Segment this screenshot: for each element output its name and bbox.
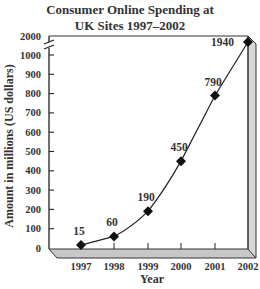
x-tick-label: 1999	[138, 261, 159, 272]
data-label: 1940	[211, 36, 234, 48]
y-tick-label: 400	[25, 165, 41, 176]
x-axis-title: Year	[140, 272, 165, 286]
y-tick-label: 500	[25, 146, 41, 157]
data-label: 450	[170, 141, 188, 153]
data-series: 15601904507901940	[73, 36, 253, 250]
y-tick-label: 600	[25, 127, 41, 138]
x-tick-label: 2001	[205, 261, 226, 272]
data-label: 60	[106, 216, 118, 228]
y-tick-label: 200	[25, 204, 41, 215]
y-axis-title: Amount in millions (US dollars)	[2, 64, 16, 227]
data-label: 790	[204, 76, 222, 88]
diamond-marker-icon	[109, 231, 119, 241]
data-label: 190	[137, 191, 155, 203]
chart-canvas: 010020030040050060070080090010002000 199…	[0, 0, 260, 289]
diamond-marker-icon	[210, 91, 220, 101]
y-tick-label: 100	[25, 223, 41, 234]
y-tick-label: 1000	[20, 50, 41, 61]
x-tick-label: 1997	[71, 261, 92, 272]
data-label: 15	[73, 225, 85, 237]
y-tick-label: 700	[25, 107, 41, 118]
y-tick-label: 300	[25, 185, 41, 196]
y-tick-label: 900	[25, 69, 41, 80]
diamond-marker-icon	[176, 156, 186, 166]
y-tick-label: 2000	[20, 31, 41, 42]
series-line	[81, 42, 248, 245]
x-tick-label: 1998	[104, 261, 125, 272]
x-tick-label: 2002	[238, 261, 259, 272]
y-tick-label: 800	[25, 88, 41, 99]
x-tick-label: 2000	[171, 261, 192, 272]
y-tick-label: 0	[36, 243, 41, 254]
